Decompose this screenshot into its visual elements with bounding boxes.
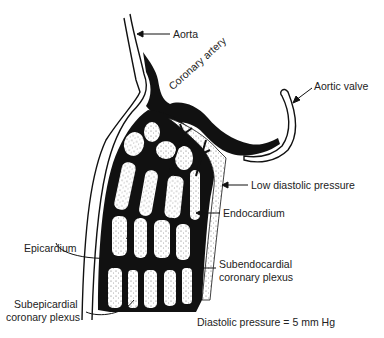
label-subepicardial-line1: Subepicardial xyxy=(14,298,78,310)
label-subendocardial-line2: coronary plexus xyxy=(219,271,293,283)
label-subendocardial-line1: Subendocardial xyxy=(219,258,292,270)
heart-wall-illustration xyxy=(0,0,384,338)
label-low-diastolic-pressure: Low diastolic pressure xyxy=(251,179,355,191)
label-aortic-valve: Aortic valve xyxy=(314,80,368,92)
label-subepicardial-line2: coronary plexus xyxy=(6,311,80,323)
label-epicardium: Epicardium xyxy=(24,242,77,254)
label-diastolic-pressure: Diastolic pressure = 5 mm Hg xyxy=(197,316,335,328)
label-aorta: Aorta xyxy=(173,28,198,40)
diagram-canvas: Aorta Coronary artery Aortic valve Low d… xyxy=(0,0,384,338)
label-endocardium: Endocardium xyxy=(223,207,285,219)
